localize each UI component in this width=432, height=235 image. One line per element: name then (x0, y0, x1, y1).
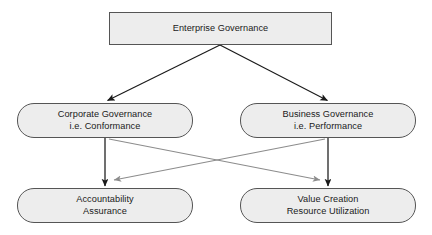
node-corporate-governance-line2: i.e. Conformance (70, 121, 141, 133)
node-enterprise-governance-line1: Enterprise Governance (173, 23, 269, 35)
node-business-governance-line2: i.e. Performance (294, 121, 362, 133)
node-value-creation-line1: Value Creation (298, 194, 359, 206)
edge-corporate-to-value (109, 139, 320, 180)
node-corporate-governance[interactable]: Corporate Governance i.e. Conformance (17, 103, 193, 138)
edge-enterprise-to-business (220, 45, 328, 101)
edge-enterprise-to-corporate (108, 45, 221, 101)
node-accountability-assurance-line2: Assurance (83, 206, 127, 218)
node-accountability-assurance[interactable]: Accountability Assurance (17, 188, 193, 223)
node-value-creation-resource-utilization[interactable]: Value Creation Resource Utilization (240, 188, 416, 223)
node-business-governance-line1: Business Governance (283, 109, 374, 121)
edge-business-to-accountability (114, 139, 325, 180)
governance-diagram: Enterprise Governance Corporate Governan… (0, 0, 432, 235)
node-value-creation-line2: Resource Utilization (287, 206, 370, 218)
node-accountability-assurance-line1: Accountability (76, 194, 133, 206)
node-corporate-governance-line1: Corporate Governance (58, 109, 152, 121)
node-business-governance[interactable]: Business Governance i.e. Performance (240, 103, 416, 138)
node-enterprise-governance[interactable]: Enterprise Governance (109, 12, 332, 45)
